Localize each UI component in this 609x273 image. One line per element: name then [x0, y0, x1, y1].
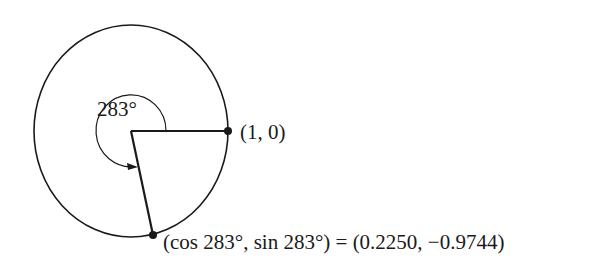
angle-label: 283° [97, 99, 137, 120]
terminal-side [131, 131, 153, 235]
point-terminal-label: (cos 283°, sin 283°) = (0.2250, −0.9744) [163, 232, 504, 253]
angle-arrow-icon [127, 163, 138, 170]
point-terminal-marker [149, 231, 157, 239]
point-start-marker [224, 127, 232, 135]
point-start-label: (1, 0) [240, 122, 286, 143]
unit-circle-diagram: 283° (1, 0) (cos 283°, sin 283°) = (0.22… [0, 0, 609, 273]
